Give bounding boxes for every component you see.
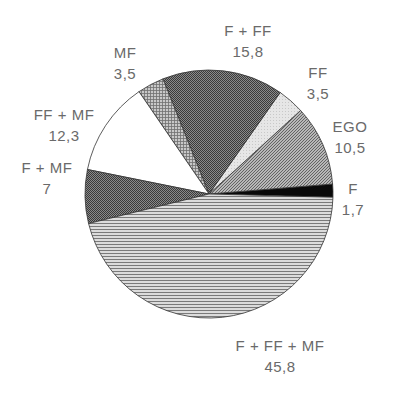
- slice-label-value: 10,5: [333, 137, 368, 158]
- slice-label-value: 1,7: [342, 199, 364, 220]
- slice-label: EGO10,5: [333, 116, 368, 158]
- slice-label-value: 3,5: [114, 63, 137, 84]
- slice-label-name: F + FF + MF: [236, 335, 325, 356]
- slice-label-value: 15,8: [224, 41, 272, 62]
- slice-label: FF + MF12,3: [34, 104, 95, 146]
- slice-label: F + FF15,8: [224, 20, 272, 62]
- slice-label-value: 3,5: [307, 83, 329, 104]
- pie-slices: [85, 70, 333, 318]
- slice-label-value: 7: [22, 178, 73, 199]
- slice-label-value: 45,8: [236, 356, 325, 377]
- slice-label-name: F + FF: [224, 20, 272, 41]
- slice-label-name: FF: [307, 62, 329, 83]
- slice-label: F + MF7: [22, 157, 73, 199]
- slice-label: MF3,5: [114, 42, 137, 84]
- slice-label: F1,7: [342, 178, 364, 220]
- slice-label-name: EGO: [333, 116, 368, 137]
- slice-label-name: F + MF: [22, 157, 73, 178]
- slice-label-value: 12,3: [34, 125, 95, 146]
- slice-label-name: FF + MF: [34, 104, 95, 125]
- slice-label-name: MF: [114, 42, 137, 63]
- slice-label: FF3,5: [307, 62, 329, 104]
- slice-label-name: F: [342, 178, 364, 199]
- slice-label: F + FF + MF45,8: [236, 335, 325, 377]
